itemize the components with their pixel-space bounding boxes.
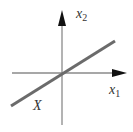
x2-axis-label: x2 — [75, 6, 87, 23]
x2-arrowhead-icon — [58, 10, 66, 26]
coordinate-diagram: x2 x1 X — [0, 0, 133, 132]
line-x-label: X — [32, 98, 42, 113]
x1-arrowhead-icon — [112, 69, 127, 77]
x1-axis-label: x1 — [108, 82, 120, 99]
